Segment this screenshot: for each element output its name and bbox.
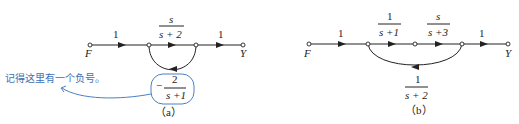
diagram-a: F Y 1 1 s s + 2 − 2 s +1 记得这里有一个负号。 （a） [5, 13, 248, 118]
handwritten-note: 记得这里有一个负号。 [5, 72, 105, 84]
node-b3 [460, 42, 464, 46]
gain-a-3: 1 [218, 28, 224, 40]
gain-b-3-num: s [436, 10, 440, 22]
arrow-icon [338, 41, 346, 47]
output-label-a: Y [240, 47, 248, 59]
node-b1 [366, 42, 370, 46]
gain-b-2-den: s +1 [379, 26, 399, 38]
input-label-b: F [303, 47, 311, 59]
signal-flow-graphs: F Y 1 1 s s + 2 − 2 s +1 记得这里有一个负号。 （a） [0, 0, 519, 124]
diagram-b: F Y 1 1 1 s +1 s s +3 1 s + 2 （b） [303, 10, 513, 116]
arrow-icon [480, 41, 488, 47]
gain-a-fb-sign: − [156, 79, 162, 91]
caption-b: （b） [405, 104, 433, 116]
node-y [506, 42, 510, 46]
gain-b-2-num: 1 [387, 10, 393, 22]
arrow-icon [388, 41, 396, 47]
gain-b-fb-den: s + 2 [405, 89, 428, 101]
node-a1 [147, 43, 151, 47]
arrow-icon [169, 66, 177, 72]
arrow-icon [168, 42, 176, 48]
gain-a-2-den: s + 2 [159, 28, 182, 40]
gain-b-1: 1 [338, 27, 344, 39]
output-label-b: Y [505, 47, 513, 59]
gain-b-fb-num: 1 [415, 73, 421, 85]
gain-a-fb-num: 2 [172, 73, 178, 85]
gain-a-fb-den: s +1 [166, 89, 186, 101]
input-label-a: F [84, 47, 92, 59]
node-b2 [413, 42, 417, 46]
arrow-icon [435, 41, 443, 47]
gain-b-4: 1 [479, 27, 485, 39]
caption-a: （a） [155, 106, 182, 118]
arrow-icon [118, 42, 126, 48]
arrow-icon [216, 42, 224, 48]
gain-a-1: 1 [113, 28, 119, 40]
gain-a-2-num: s [169, 13, 173, 25]
node-a2 [194, 43, 198, 47]
annotation-arrow [62, 88, 151, 98]
branch-b-feedback [368, 44, 462, 65]
node-f [307, 42, 311, 46]
gain-b-3-den: s +3 [428, 26, 448, 38]
branch-a-feedback [149, 45, 196, 70]
